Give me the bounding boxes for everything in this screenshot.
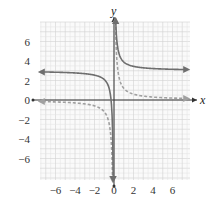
x-tick-label: 0 bbox=[111, 184, 117, 196]
x-tick-label: −6 bbox=[50, 184, 62, 196]
x-axis-arrow-icon bbox=[192, 98, 197, 103]
y-tick-label: 4 bbox=[25, 55, 31, 67]
x-axis-label: x bbox=[199, 93, 206, 107]
x-tick-label: 4 bbox=[150, 184, 156, 196]
grid bbox=[40, 22, 190, 180]
y-axis-label: y bbox=[110, 4, 117, 18]
y-tick-label: −6 bbox=[18, 153, 30, 165]
y-tick-label: 6 bbox=[25, 36, 31, 48]
y-tick-label: 2 bbox=[25, 75, 31, 87]
y-tick-label: 0 bbox=[25, 94, 31, 106]
x-tick-label: −4 bbox=[69, 184, 81, 196]
x-tick-label: −2 bbox=[89, 184, 101, 196]
y-tick-label: −2 bbox=[18, 114, 30, 126]
x-tick-label: 6 bbox=[170, 184, 176, 196]
x-tick-label: 2 bbox=[131, 184, 137, 196]
y-tick-label: −4 bbox=[18, 133, 30, 145]
hyperbola-graph: −6−4−202466420−2−4−6 y x bbox=[0, 0, 218, 206]
